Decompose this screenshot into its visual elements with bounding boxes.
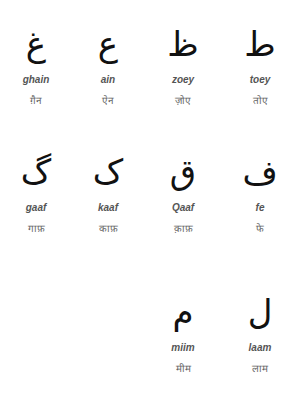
hindi-label: ज़ोए [147, 93, 219, 107]
letter-card-gaaf: گ gaaf गाफ़ [0, 150, 72, 235]
latin-label: laam [224, 342, 290, 353]
latin-label: ain [72, 74, 144, 85]
letter-card-zoey: ظ zoey ज़ोए [147, 22, 219, 107]
arabic-glyph: ف [224, 150, 290, 194]
latin-label: ghain [0, 74, 72, 85]
hindi-label: क़ाफ़ [147, 221, 219, 235]
latin-label: miim [147, 342, 219, 353]
hindi-label: गाफ़ [0, 221, 72, 235]
latin-label: zoey [147, 74, 219, 85]
hindi-label: फे [224, 221, 290, 235]
hindi-label: तोए [224, 93, 290, 107]
latin-label: toey [224, 74, 290, 85]
arabic-glyph: گ [0, 150, 72, 194]
letter-card-fe: ف fe फे [224, 150, 290, 235]
letter-card-miim: م miim मीम [147, 290, 219, 375]
hindi-label: लाम [224, 361, 290, 375]
latin-label: kaaf [72, 202, 144, 213]
arabic-glyph: ظ [147, 22, 219, 66]
letter-card-laam: ل laam लाम [224, 290, 290, 375]
hindi-label: काफ़ [72, 221, 144, 235]
letter-card-toey: ط toey तोए [224, 22, 290, 107]
arabic-glyph: م [147, 290, 219, 334]
hindi-label: मीम [147, 361, 219, 375]
latin-label: gaaf [0, 202, 72, 213]
letter-card-ain: ع ain ऐन [72, 22, 144, 107]
arabic-glyph: ک [72, 150, 144, 194]
arabic-glyph: ع [72, 22, 144, 66]
arabic-glyph: ق [147, 150, 219, 194]
letter-card-kaaf: ک kaaf काफ़ [72, 150, 144, 235]
arabic-glyph: ل [224, 290, 290, 334]
letter-card-ghain: غ ghain ग़ैन [0, 22, 72, 107]
latin-label: Qaaf [147, 202, 219, 213]
hindi-label: ऐन [72, 93, 144, 107]
hindi-label: ग़ैन [0, 93, 72, 107]
arabic-glyph: غ [0, 22, 72, 66]
letter-card-qaaf: ق Qaaf क़ाफ़ [147, 150, 219, 235]
latin-label: fe [224, 202, 290, 213]
arabic-glyph: ط [224, 22, 290, 66]
